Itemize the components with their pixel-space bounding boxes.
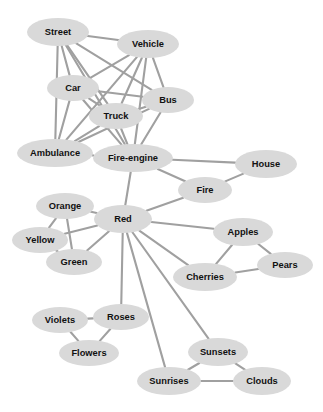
node-shape-red	[94, 205, 152, 233]
edge-fire-house	[225, 174, 243, 182]
edge-sunsets-sunrises	[188, 363, 199, 370]
node-truck[interactable]: Truck	[89, 103, 143, 129]
edge-violets-flowers	[71, 332, 79, 341]
graph-svg-surface: StreetVehicleCarBusTruckAmbulanceFire-en…	[0, 0, 323, 412]
node-shape-violets	[32, 307, 88, 333]
edge-fire-engine-house	[173, 160, 235, 163]
network-diagram: StreetVehicleCarBusTruckAmbulanceFire-en…	[0, 0, 323, 412]
node-flowers[interactable]: Flowers	[59, 340, 119, 366]
node-fire[interactable]: Fire	[178, 177, 232, 203]
node-shape-vehicle	[117, 30, 179, 58]
edge-red-roses	[121, 233, 122, 304]
edge-red-apples	[151, 222, 213, 229]
node-shape-pears	[257, 252, 313, 278]
node-car[interactable]: Car	[47, 75, 99, 101]
node-clouds[interactable]: Clouds	[233, 367, 291, 395]
node-shape-green	[46, 249, 102, 275]
node-shape-fire	[178, 177, 232, 203]
node-shape-sunsets	[188, 338, 248, 366]
node-shape-truck	[89, 103, 143, 129]
node-shape-house	[235, 150, 297, 178]
node-shape-car	[47, 75, 99, 101]
edge-red-orange	[91, 212, 97, 213]
node-bus[interactable]: Bus	[142, 87, 194, 113]
edge-apples-pears	[258, 244, 270, 254]
edge-apples-cherries	[216, 245, 232, 264]
node-pears[interactable]: Pears	[257, 252, 313, 278]
node-shape-sunrises	[137, 367, 201, 395]
edge-red-green	[87, 231, 109, 250]
node-yellow[interactable]: Yellow	[12, 227, 68, 253]
node-sunrises[interactable]: Sunrises	[137, 367, 201, 395]
node-shape-yellow	[12, 227, 68, 253]
edge-street-vehicle	[88, 36, 119, 40]
edge-sunsets-clouds	[235, 363, 245, 369]
node-sunsets[interactable]: Sunsets	[188, 338, 248, 366]
node-cherries[interactable]: Cherries	[173, 263, 237, 291]
node-apples[interactable]: Apples	[213, 218, 273, 246]
edge-roses-flowers	[100, 329, 111, 341]
node-red[interactable]: Red	[94, 205, 152, 233]
node-shape-cherries	[173, 263, 237, 291]
node-roses[interactable]: Roses	[93, 304, 149, 330]
edge-orange-yellow	[49, 218, 56, 227]
node-shape-roses	[93, 304, 149, 330]
edge-fire-engine-fire	[158, 169, 185, 181]
node-house[interactable]: House	[235, 150, 297, 178]
edge-red-cherries	[139, 231, 188, 266]
node-vehicle[interactable]: Vehicle	[117, 30, 179, 58]
edge-cherries-pears	[235, 269, 258, 272]
node-ambulance[interactable]: Ambulance	[17, 139, 93, 167]
node-violets[interactable]: Violets	[32, 307, 88, 333]
node-shape-clouds	[233, 367, 291, 395]
node-street[interactable]: Street	[27, 18, 89, 46]
node-shape-ambulance	[17, 139, 93, 167]
edge-fire-red	[146, 198, 183, 211]
node-fire-engine[interactable]: Fire-engine	[93, 144, 173, 172]
edge-car-ambulance	[59, 101, 70, 139]
edge-bus-fire-engine	[141, 112, 160, 144]
node-shape-fire-engine	[93, 144, 173, 172]
node-orange[interactable]: Orange	[36, 193, 94, 219]
edge-vehicle-bus	[153, 58, 163, 87]
node-shape-street	[27, 18, 89, 46]
edge-yellow-green	[56, 251, 57, 252]
edge-fire-engine-red	[125, 172, 130, 205]
node-shape-flowers	[59, 340, 119, 366]
node-green[interactable]: Green	[46, 249, 102, 275]
node-shape-bus	[142, 87, 194, 113]
node-shape-orange	[36, 193, 94, 219]
node-shape-apples	[213, 218, 273, 246]
